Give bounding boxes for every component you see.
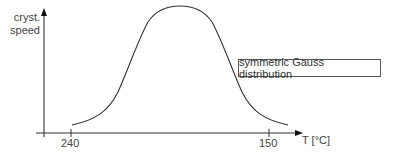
y-axis-label-line2: speed	[6, 24, 40, 37]
chart-canvas	[0, 0, 393, 160]
x-axis-label: T [°C]	[302, 134, 330, 147]
y-axis-label: cryst. speed	[6, 11, 40, 37]
annotation-box: symmetric Gauss distribution	[238, 59, 381, 77]
tick-label-240: 240	[61, 137, 79, 150]
tick-label-150: 150	[259, 137, 277, 150]
y-axis-label-line1: cryst.	[6, 11, 40, 24]
y-axis-arrow-icon	[41, 8, 47, 16]
